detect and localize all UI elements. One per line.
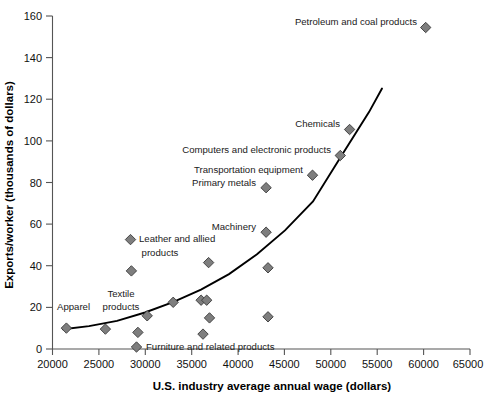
point-label-computers: Computers and electronic products <box>182 144 331 155</box>
y-tick-label: 120 <box>24 93 42 105</box>
y-tick-label: 140 <box>24 52 42 64</box>
y-tick-label: 100 <box>24 135 42 147</box>
y-tick-label: 80 <box>30 177 42 189</box>
data-point-marker[interactable] <box>307 170 317 180</box>
data-point-marker[interactable] <box>126 266 136 276</box>
x-tick-label: 50000 <box>316 358 347 370</box>
data-point-marker[interactable] <box>131 342 141 352</box>
y-tick-label: 40 <box>30 260 42 272</box>
y-axis-tick-labels: 0 20 40 60 80 100 120 140 160 <box>24 10 42 355</box>
y-axis-title: Exports/worker (thousands of dollars) <box>3 81 15 289</box>
data-point-marker[interactable] <box>204 313 214 323</box>
data-point-marker[interactable] <box>261 227 271 237</box>
point-label-textile-line2: products <box>103 301 140 312</box>
x-tick-label: 30000 <box>130 358 161 370</box>
data-point-marker[interactable] <box>168 297 178 307</box>
data-point-marker[interactable] <box>421 22 431 32</box>
point-label-leather-line1: Leather and allied <box>139 233 215 244</box>
point-label-petroleum: Petroleum and coal products <box>295 16 417 27</box>
data-point-marker[interactable] <box>61 323 71 333</box>
data-point-marker[interactable] <box>198 329 208 339</box>
scatter-chart: 0 20 40 60 80 100 120 140 160 20000 25 <box>0 0 501 400</box>
point-label-chemicals: Chemicals <box>295 118 340 129</box>
point-label-transportation: Transportation equipment <box>194 164 303 175</box>
point-label-machinery: Machinery <box>212 221 256 232</box>
data-point-marker[interactable] <box>133 327 143 337</box>
point-label-furniture: Furniture and related products <box>146 341 275 352</box>
data-point-marker[interactable] <box>261 183 271 193</box>
x-axis-title: U.S. industry average annual wage (dolla… <box>153 380 392 392</box>
y-tick-label: 20 <box>30 301 42 313</box>
x-tick-label: 65000 <box>453 358 484 370</box>
y-tick-label: 0 <box>36 343 42 355</box>
x-tick-label: 45000 <box>269 358 300 370</box>
x-tick-label: 20000 <box>37 358 68 370</box>
y-axis-ticks <box>46 16 53 349</box>
x-tick-label: 35000 <box>176 358 207 370</box>
chart-svg: 0 20 40 60 80 100 120 140 160 20000 25 <box>0 0 501 400</box>
point-label-primary-metals: Primary metals <box>192 177 256 188</box>
data-point-marker[interactable] <box>344 124 354 134</box>
point-label-leather-line2: products <box>142 247 179 258</box>
x-tick-label: 60000 <box>408 358 439 370</box>
y-tick-label: 60 <box>30 218 42 230</box>
data-point-marker[interactable] <box>263 263 273 273</box>
x-axis-tick-labels: 20000 25000 30000 35000 40000 45000 5000… <box>37 358 483 370</box>
point-labels: Apparel Textile products Leather and all… <box>57 16 417 352</box>
point-label-apparel: Apparel <box>57 301 90 312</box>
point-label-textile-line1: Textile <box>107 288 134 299</box>
data-point-marker[interactable] <box>203 257 213 267</box>
data-point-marker[interactable] <box>125 234 135 244</box>
x-tick-label: 25000 <box>84 358 115 370</box>
data-point-marker[interactable] <box>263 312 273 322</box>
x-tick-label: 55000 <box>362 358 393 370</box>
y-tick-label: 160 <box>24 10 42 22</box>
data-point-marker[interactable] <box>100 324 110 334</box>
x-tick-label: 40000 <box>223 358 254 370</box>
